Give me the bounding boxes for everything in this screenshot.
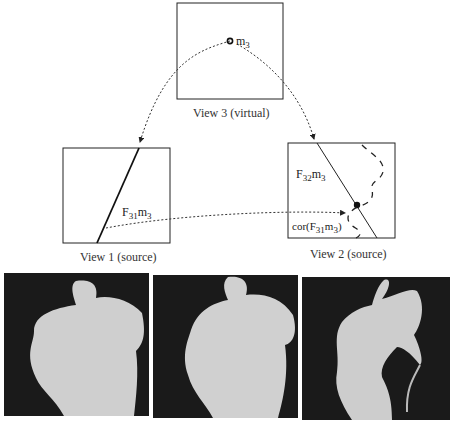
view3-frame — [177, 3, 283, 99]
caption-view3: View 3 (virtual) — [193, 106, 270, 121]
caption-view1: View 1 (source) — [80, 250, 157, 265]
caption-view2: View 2 (source) — [310, 247, 387, 262]
correlated-curve — [348, 145, 383, 238]
view1-frame — [63, 148, 170, 243]
label-f32-m3: F32m3 — [296, 167, 326, 183]
photo-virtual-view-3 — [302, 277, 450, 420]
intersection-point-icon — [354, 202, 360, 208]
epipolar-line-f31 — [97, 148, 139, 243]
photo-source-view-1 — [4, 273, 149, 416]
label-f31-m3: F31m3 — [122, 205, 152, 221]
arrow-m3-to-view1 — [140, 41, 230, 142]
label-m3: m3 — [236, 34, 250, 50]
arrow-m3-to-view2 — [237, 44, 314, 139]
label-cor: cor(F31m3) — [292, 220, 342, 235]
photo-source-view-2 — [153, 275, 298, 418]
epipolar-diagram — [0, 0, 456, 270]
